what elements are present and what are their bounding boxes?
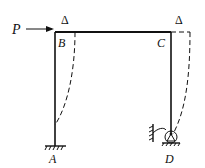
delta-right-label: Δ bbox=[175, 13, 183, 27]
load-label: P bbox=[11, 22, 21, 37]
deflected-shape bbox=[55, 32, 190, 134]
node-d-label: D bbox=[164, 152, 174, 166]
node-c-label: C bbox=[157, 36, 166, 50]
frame-diagram: P B C A D Δ Δ bbox=[0, 0, 205, 168]
delta-left-label: Δ bbox=[61, 13, 69, 27]
node-b-label: B bbox=[58, 36, 66, 50]
fixed-support-a bbox=[45, 146, 66, 150]
spring-support-d bbox=[149, 124, 180, 146]
load-arrow bbox=[26, 26, 54, 32]
node-a-label: A bbox=[48, 152, 57, 166]
